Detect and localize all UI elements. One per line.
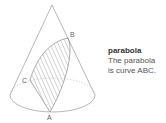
point-label-c: C: [22, 77, 27, 84]
cone-parabola-diagram: [0, 0, 100, 123]
caption-title: parabola: [108, 46, 156, 56]
hatched-section: [0, 30, 100, 120]
section-chord: [30, 80, 50, 112]
point-label-b: B: [70, 31, 75, 38]
point-label-a: A: [47, 114, 52, 121]
caption: parabola The parabola is curve ABC.: [108, 46, 156, 76]
cone-right-edge: [52, 5, 95, 95]
caption-line-2: is curve ABC.: [108, 66, 156, 76]
caption-line-1: The parabola: [108, 56, 156, 66]
